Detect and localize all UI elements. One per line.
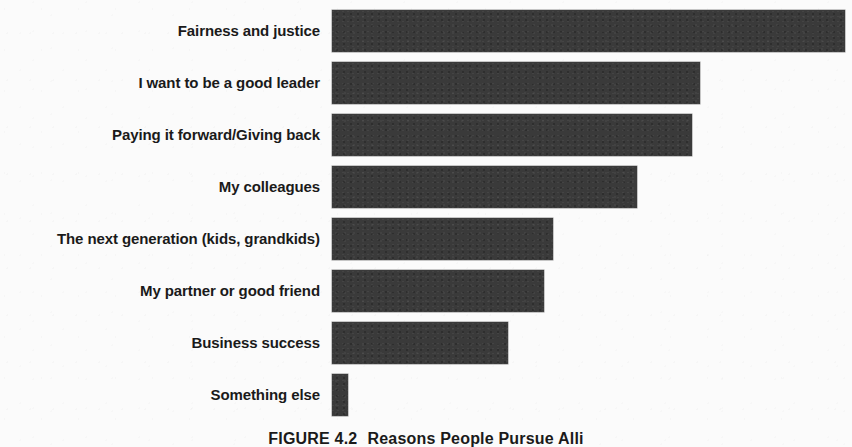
bar-chart: Fairness and justice I want to be a good… bbox=[0, 0, 852, 420]
bar bbox=[332, 322, 508, 364]
category-label: My colleagues bbox=[219, 166, 320, 208]
bar bbox=[332, 218, 553, 260]
chart-row: I want to be a good leader bbox=[0, 62, 852, 104]
category-label: Fairness and justice bbox=[178, 10, 320, 52]
bar bbox=[332, 374, 348, 416]
chart-row: Paying it forward/Giving back bbox=[0, 114, 852, 156]
chart-row: My colleagues bbox=[0, 166, 852, 208]
chart-row: The next generation (kids, grandkids) bbox=[0, 218, 852, 260]
figure-caption-text: Reasons People Pursue Alli bbox=[367, 430, 583, 447]
category-label: Business success bbox=[192, 322, 320, 364]
chart-row: My partner or good friend bbox=[0, 270, 852, 312]
category-label: The next generation (kids, grandkids) bbox=[57, 218, 320, 260]
bar bbox=[332, 114, 692, 156]
category-label: I want to be a good leader bbox=[138, 62, 320, 104]
chart-row: Business success bbox=[0, 322, 852, 364]
category-label: Something else bbox=[211, 374, 320, 416]
bar bbox=[332, 166, 637, 208]
bar bbox=[332, 10, 845, 52]
figure-caption-number: FIGURE 4.2 bbox=[268, 430, 357, 447]
figure-container: Fairness and justice I want to be a good… bbox=[0, 0, 852, 447]
chart-row: Fairness and justice bbox=[0, 10, 852, 52]
chart-row: Something else bbox=[0, 374, 852, 416]
bar bbox=[332, 270, 544, 312]
category-label: Paying it forward/Giving back bbox=[112, 114, 320, 156]
figure-caption: FIGURE 4.2Reasons People Pursue Alli bbox=[0, 430, 852, 447]
category-label: My partner or good friend bbox=[140, 270, 320, 312]
bar bbox=[332, 62, 700, 104]
